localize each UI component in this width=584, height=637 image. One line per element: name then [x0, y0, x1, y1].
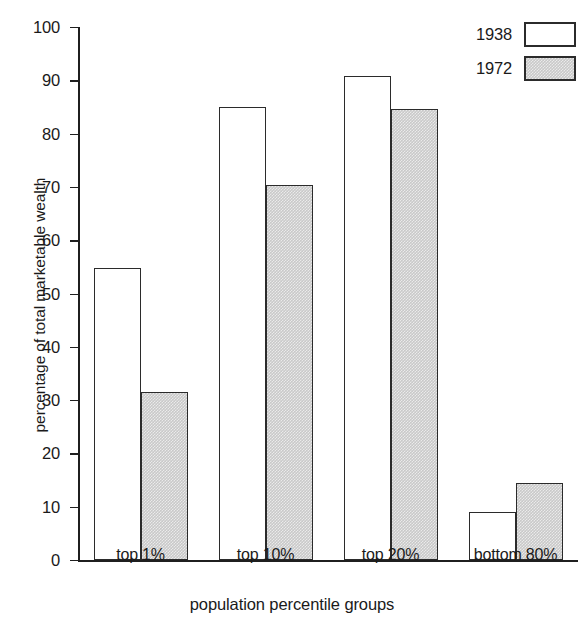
- y-axis-tick: [70, 294, 78, 295]
- y-axis-tick: [70, 80, 78, 81]
- legend-swatch-1938: [524, 22, 576, 47]
- y-axis-tick-label: 80: [14, 124, 60, 143]
- bar-1938-top-10-: [219, 107, 266, 560]
- y-axis-tick-label: 100: [14, 18, 60, 37]
- x-axis-tick-label: top 20%: [362, 546, 419, 564]
- x-axis-tick-label: top 1%: [116, 546, 165, 564]
- legend-swatch-1972: [524, 56, 576, 81]
- y-axis-tick: [70, 134, 78, 135]
- y-axis-tick-label: 20: [14, 444, 60, 463]
- bar-1972-top-20-: [391, 109, 438, 560]
- y-axis-line: [78, 27, 80, 560]
- y-axis-tick: [70, 27, 78, 28]
- plot-area: [78, 27, 578, 560]
- y-axis-tick-label: 60: [14, 231, 60, 250]
- bar-chart-figure: percentage of total marketable wealth 01…: [0, 0, 584, 637]
- legend-label-1972: 1972: [476, 59, 512, 78]
- x-axis-tick-label: top 10%: [237, 546, 294, 564]
- y-axis-tick: [70, 507, 78, 508]
- y-axis-tick: [70, 453, 78, 454]
- bar-1938-top-1-: [94, 268, 141, 560]
- bar-1972-top-1-: [141, 392, 188, 560]
- y-axis-tick-label: 70: [14, 177, 60, 196]
- y-axis-tick: [70, 240, 78, 241]
- bar-1938-top-20-: [344, 76, 391, 560]
- bar-1972-top-10-: [266, 185, 313, 560]
- y-axis-tick-label: 10: [14, 497, 60, 516]
- y-axis-tick-labels: 0102030405060708090100: [14, 27, 60, 560]
- legend-label-1938: 1938: [476, 25, 512, 44]
- chart-legend: 1938 1972: [416, 22, 576, 90]
- x-axis-tick-label: bottom 80%: [474, 546, 557, 564]
- legend-item-1972: 1972: [416, 56, 576, 81]
- y-axis-tick-label: 40: [14, 337, 60, 356]
- y-axis-tick-label: 90: [14, 71, 60, 90]
- y-axis-tick-label: 0: [14, 551, 60, 570]
- y-axis-tick: [70, 347, 78, 348]
- legend-item-1938: 1938: [416, 22, 576, 47]
- y-axis-tick-label: 30: [14, 391, 60, 410]
- x-axis-title: population percentile groups: [0, 595, 584, 614]
- y-axis-tick: [70, 187, 78, 188]
- y-axis-tick: [70, 560, 78, 561]
- y-axis-tick: [70, 400, 78, 401]
- y-axis-tick-label: 50: [14, 284, 60, 303]
